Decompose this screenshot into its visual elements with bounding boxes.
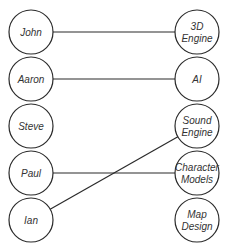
node-label: Paul xyxy=(21,168,42,179)
node-label: Engine xyxy=(181,33,213,44)
node-label: Aaron xyxy=(17,74,45,85)
nodes-layer: JohnAaronStevePaulIan3DEngineAISoundEngi… xyxy=(9,10,220,242)
node-3d-engine: 3DEngine xyxy=(175,10,219,54)
node-label: Steve xyxy=(18,121,44,132)
node-paul: Paul xyxy=(9,151,53,195)
node-label: Ian xyxy=(24,215,38,226)
node-label: Models xyxy=(181,174,213,185)
node-label: AI xyxy=(191,74,202,85)
node-ian: Ian xyxy=(9,198,53,242)
node-aaron: Aaron xyxy=(9,57,53,101)
node-label: 3D xyxy=(191,21,204,32)
node-label: Character xyxy=(175,162,220,173)
node-steve: Steve xyxy=(9,104,53,148)
node-label: Map xyxy=(187,209,207,220)
assignment-diagram: JohnAaronStevePaulIan3DEngineAISoundEngi… xyxy=(0,0,229,251)
node-map-design: MapDesign xyxy=(175,198,219,242)
node-john: John xyxy=(9,10,53,54)
node-label: Sound xyxy=(183,115,212,126)
node-label: John xyxy=(19,27,42,38)
node-label: Engine xyxy=(181,127,213,138)
node-sound-engine: SoundEngine xyxy=(175,104,219,148)
node-character-models: CharacterModels xyxy=(175,151,220,195)
node-ai: AI xyxy=(175,57,219,101)
edges-layer xyxy=(50,32,178,209)
node-label: Design xyxy=(181,221,213,232)
